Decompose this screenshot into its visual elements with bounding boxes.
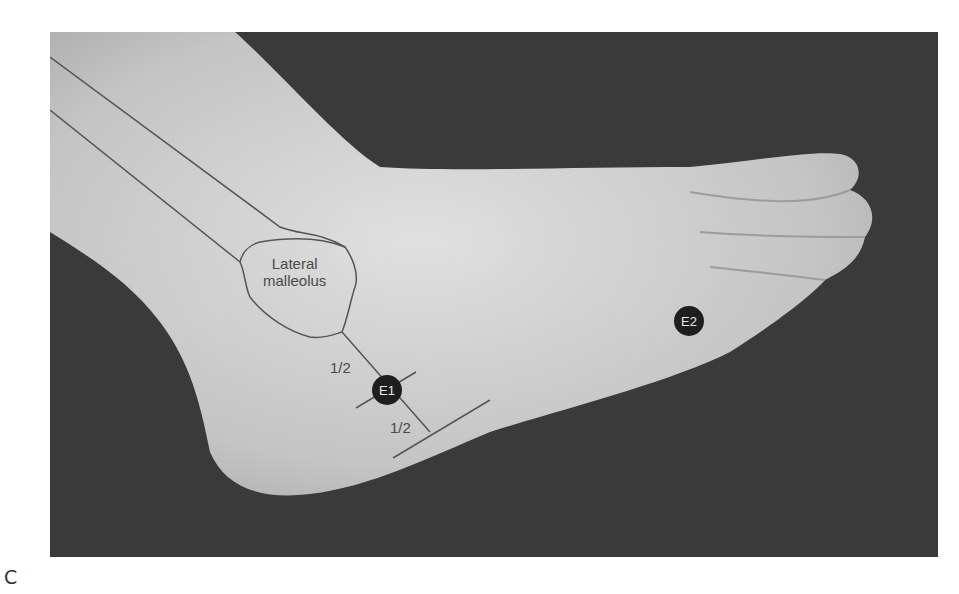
lateral-malleolus-label: Lateral malleolus	[263, 255, 326, 289]
panel-letter: C	[4, 566, 17, 588]
foot-photo: Lateral malleolus 1/2 1/2 E1 E2	[50, 32, 938, 557]
point-e2-marker: E2	[674, 306, 704, 336]
point-e1-marker: E1	[372, 375, 402, 405]
foot-silhouette	[50, 32, 872, 495]
foot-illustration	[50, 32, 938, 557]
half-upper-label: 1/2	[330, 359, 351, 376]
half-lower-label: 1/2	[390, 419, 411, 436]
